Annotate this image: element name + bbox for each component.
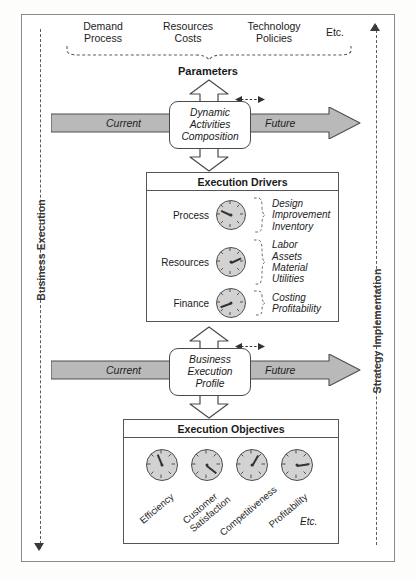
parameters-title: Parameters (22, 65, 394, 77)
execution-drivers-title: Execution Drivers (147, 173, 338, 191)
parameter-group-technology: Technology Policies (232, 21, 316, 44)
dynamic-activities-composition-box: Dynamic Activities Composition (169, 101, 251, 149)
objectives-etc-label: Etc. (300, 516, 317, 527)
business-execution-profile-box: Business Execution Profile (169, 348, 251, 396)
parameter-label: Technology (232, 21, 316, 33)
diagram-canvas: Business Execution Strategy Implementati… (22, 15, 394, 561)
objective-label-line: Competitiveness (217, 484, 278, 538)
right-axis-label: Strategy Implementation (371, 260, 383, 402)
execution-objectives-title: Execution Objectives (124, 420, 338, 438)
left-axis-arrow-icon (34, 543, 44, 551)
left-axis-label: Business Execution (35, 195, 47, 305)
objective-label: Competitiveness (218, 484, 279, 538)
driver-gauge (216, 247, 246, 277)
parameter-group-demand: Demand Process (64, 21, 142, 44)
parameter-group-etc: Etc. (316, 27, 354, 39)
center-box-line: Composition (170, 131, 250, 143)
parameter-label: Process (64, 33, 142, 45)
driver-row: Finance (147, 288, 321, 318)
center-box-line: Business (170, 354, 250, 366)
gauge-hub (230, 214, 233, 217)
objective-label: Efficiency (138, 492, 176, 526)
band-top-current-label: Current (106, 117, 141, 129)
left-axis: Business Execution (30, 29, 52, 549)
gauge-hub (230, 302, 233, 305)
execution-drivers-panel: Execution Drivers Process (146, 172, 339, 322)
parameter-label: Demand (64, 21, 142, 33)
parameter-group-resources: Resources Costs (148, 21, 228, 44)
objective-label-line: Efficiency (137, 491, 175, 526)
right-axis: Strategy Implementation (366, 25, 388, 545)
band-top-future-label: Future (265, 117, 295, 129)
driver-item: Profitability (272, 303, 321, 314)
right-axis-arrow-icon (370, 23, 380, 31)
driver-row: Resources (147, 239, 308, 285)
driver-gauge (216, 200, 246, 230)
driver-name: Process (147, 210, 216, 221)
gauge-hub (230, 261, 233, 264)
center-box-line: Dynamic (170, 107, 250, 119)
driver-items: Costing Profitability (272, 292, 321, 315)
driver-item: Design (272, 198, 330, 209)
driver-item: Material (272, 262, 308, 273)
center-box-line: Execution (170, 366, 250, 378)
driver-item: Inventory (272, 221, 330, 232)
driver-item: Costing (272, 292, 321, 303)
band-bottom-current-label: Current (106, 364, 141, 376)
driver-gauge (216, 288, 246, 318)
parameter-label: Policies (232, 33, 316, 45)
driver-items: Design Improvement Inventory (272, 198, 330, 232)
diagram-frame: Business Execution Strategy Implementati… (21, 14, 395, 562)
execution-drivers-body: Process (147, 191, 338, 322)
execution-objectives-panel: Execution Objectives (123, 419, 339, 544)
execution-objectives-body: Efficiency Customer Satisfaction Competi… (124, 438, 338, 544)
driver-item: Labor (272, 239, 308, 250)
center-box-line: Profile (170, 378, 250, 390)
center-box-line: Activities (170, 119, 250, 131)
driver-items: Labor Assets Material Utilities (272, 239, 308, 285)
parameter-sources: Demand Process Resources Costs Technolog… (64, 21, 354, 47)
driver-row: Process (147, 197, 330, 233)
parameter-label: Costs (148, 33, 228, 45)
parameter-label: Resources (148, 21, 228, 33)
driver-item: Assets (272, 251, 308, 262)
driver-item: Improvement (272, 209, 330, 220)
band-bottom-future-label: Future (265, 364, 295, 376)
parameter-brace (64, 45, 354, 61)
parameter-label: Etc. (316, 27, 354, 39)
driver-name: Resources (147, 257, 216, 268)
driver-item: Utilities (272, 273, 308, 284)
objective-labels: Efficiency Customer Satisfaction Competi… (124, 438, 338, 544)
driver-name: Finance (147, 298, 216, 309)
